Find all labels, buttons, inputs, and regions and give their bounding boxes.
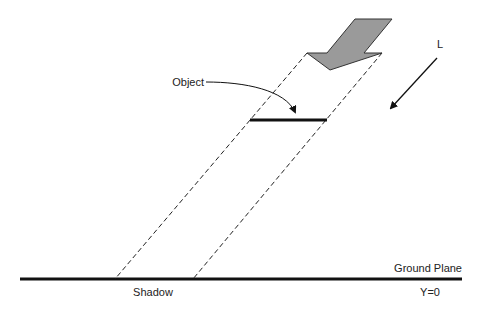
light-direction-arrow — [391, 58, 437, 108]
projection-ray-right — [193, 53, 382, 279]
light-source-arrow-icon — [307, 19, 392, 70]
object-leader-arrow — [206, 82, 295, 112]
ground-plane-label: Ground Plane — [394, 262, 462, 274]
light-label: L — [437, 38, 443, 50]
shadow-label: Shadow — [133, 286, 173, 298]
projection-ray-left — [115, 53, 307, 279]
ground-y-label: Y=0 — [420, 286, 440, 298]
shadow-diagram: Object L Ground Plane Shadow Y=0 — [0, 0, 480, 309]
object-label: Object — [172, 76, 204, 88]
